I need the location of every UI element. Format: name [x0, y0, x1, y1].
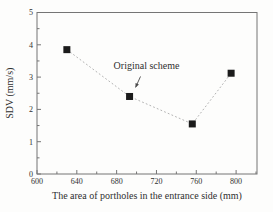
plot-box — [37, 13, 257, 175]
x-tick-label: 640 — [71, 177, 83, 186]
y-tick-label: 2 — [29, 105, 33, 114]
data-point-marker — [126, 93, 133, 100]
x-tick-label: 720 — [150, 177, 162, 186]
x-tick-label: 800 — [230, 177, 242, 186]
data-point-marker — [189, 120, 196, 127]
y-axis-label: SDV (mm/s) — [4, 68, 16, 119]
x-axis-label: The area of portholes in the entrance si… — [52, 190, 242, 202]
y-tick-label: 5 — [29, 8, 33, 17]
y-tick-label: 4 — [29, 41, 33, 50]
x-tick-label: 680 — [111, 177, 123, 186]
x-tick-label: 760 — [190, 177, 202, 186]
y-tick-label: 1 — [29, 138, 33, 147]
annotation-label: Original scheme — [114, 60, 180, 71]
data-point-marker — [228, 70, 235, 77]
y-tick-label: 0 — [29, 170, 33, 179]
data-point-marker — [63, 46, 70, 53]
scatter-plot: 600640680720760800012345Original schemeT… — [0, 0, 273, 212]
y-tick-label: 3 — [29, 73, 33, 82]
chart-figure: 600640680720760800012345Original schemeT… — [0, 0, 273, 212]
